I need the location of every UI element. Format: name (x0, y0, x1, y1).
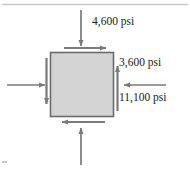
right-shear-stress-label: 3,600 psi (119, 57, 161, 69)
corner-mark (2, 161, 7, 163)
top-normal-stress-label: 4,600 psi (92, 16, 134, 28)
right-normal-stress-label: 11,100 psi (119, 92, 167, 104)
stress-element-figure: 4,600 psi 3,600 psi 11,100 psi (0, 0, 190, 169)
stress-element-square (51, 53, 114, 117)
